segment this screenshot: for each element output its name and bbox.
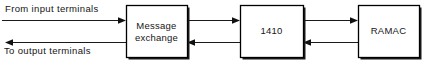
diagram-canvas: Message exchange 1410 RAMAC From input t… (0, 0, 431, 68)
connection-input-to-exchange (2, 17, 126, 24)
connection-ramac-to-1410 (303, 39, 358, 46)
label-to-output-terminals: To output terminals (4, 45, 91, 56)
box-message-exchange (127, 6, 190, 60)
connection-exchange-to-1410 (187, 17, 240, 24)
box-1410 (241, 6, 306, 60)
connection-1410-to-exchange (187, 39, 240, 46)
connection-1410-to-ramac (303, 17, 358, 24)
box-ramac (359, 6, 422, 60)
label-from-input-terminals: From input terminals (5, 3, 99, 14)
